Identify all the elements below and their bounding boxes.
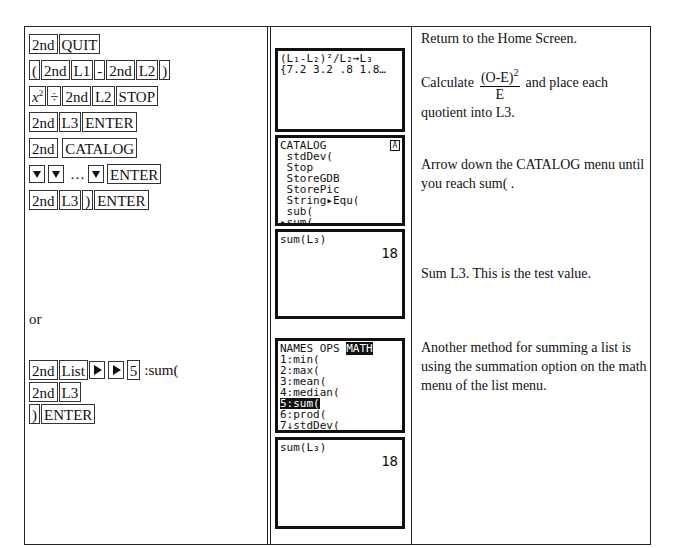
sum-label: :sum( bbox=[144, 359, 178, 381]
down-arrow-key-icon bbox=[48, 165, 64, 183]
fraction-formula: (O-E)2E bbox=[480, 65, 520, 103]
key-l2: L2 bbox=[92, 86, 115, 106]
column-divider bbox=[267, 27, 268, 544]
keystroke-row-l3-enter: 2ndL3ENTER bbox=[29, 109, 138, 132]
description-home-screen: Return to the Home Screen. bbox=[421, 29, 649, 48]
fraction-denominator: E bbox=[480, 87, 520, 103]
key-l3: L3 bbox=[59, 112, 82, 132]
instruction-table: 2ndQUIT (2ndL1-2ndL2) x2÷2ndL2STOP 2ndL3… bbox=[24, 26, 651, 545]
key-2nd: 2nd bbox=[29, 360, 58, 380]
tab-ops: OPS bbox=[320, 342, 340, 355]
keystroke-row-quit: 2ndQUIT bbox=[29, 31, 101, 54]
key-close-paren: ) bbox=[29, 404, 40, 424]
keystroke-row-catalog: 2nd CATALOG bbox=[29, 135, 138, 158]
column-divider bbox=[270, 27, 271, 544]
keystroke-row-arrow-down: …ENTER bbox=[29, 161, 162, 185]
fraction-numerator: (O-E)2 bbox=[480, 65, 520, 87]
key-l3: L3 bbox=[59, 190, 82, 210]
down-arrow-key-icon bbox=[88, 165, 104, 183]
keystroke-row-close-enter: )ENTER bbox=[29, 401, 96, 424]
x-label: x bbox=[32, 89, 39, 105]
key-enter: ENTER bbox=[41, 404, 95, 424]
key-enter: ENTER bbox=[107, 164, 161, 184]
calculate-label: Calculate bbox=[421, 75, 474, 90]
tab-math-selected: MATH bbox=[346, 342, 373, 355]
key-l1: L1 bbox=[71, 60, 94, 80]
key-enter: ENTER bbox=[94, 190, 148, 210]
description-catalog: Arrow down the CATALOG menu until you re… bbox=[421, 155, 649, 193]
key-quit: QUIT bbox=[59, 34, 101, 54]
key-2nd: 2nd bbox=[29, 190, 58, 210]
sum-result: 18 bbox=[280, 453, 400, 469]
key-stop: STOP bbox=[116, 86, 158, 106]
key-2nd: 2nd bbox=[29, 34, 58, 54]
superscript-2: 2 bbox=[39, 88, 44, 98]
key-2nd: 2nd bbox=[29, 138, 58, 158]
right-arrow-key-icon bbox=[108, 361, 124, 379]
description-alternate: Another method for summing a list is usi… bbox=[421, 338, 649, 395]
or-label: or bbox=[29, 308, 42, 330]
calc-screen-sum-result: sum(L₃) 18 bbox=[275, 229, 405, 319]
ellipsis: … bbox=[70, 163, 85, 185]
description-calculate: Calculate(O-E)2Eand place each quotient … bbox=[421, 65, 649, 122]
calc-screen-catalog: A CATALOG stdDev( Stop StoreGDB StorePic… bbox=[275, 135, 405, 226]
keystroke-row-l3: 2ndL3 bbox=[29, 379, 82, 402]
numerator-text: (O-E) bbox=[481, 70, 514, 85]
key-minus: - bbox=[94, 60, 105, 80]
keystroke-row-square-divide: x2÷2ndL2STOP bbox=[29, 83, 159, 106]
key-enter: ENTER bbox=[82, 112, 136, 132]
column-divider bbox=[411, 27, 412, 544]
numerator-exponent: 2 bbox=[514, 67, 519, 78]
keystroke-row-list-math: 2ndList5:sum( bbox=[29, 357, 182, 381]
calc-screen-sum-result-2: sum(L₃) 18 bbox=[275, 437, 405, 529]
key-open-paren: ( bbox=[29, 60, 40, 80]
calc-screen-list-math-menu: NAMES OPS MATH 1:min( 2:max( 3:mean( 4:m… bbox=[275, 338, 405, 433]
key-close-paren: ) bbox=[82, 190, 93, 210]
calc-screen-list-calc: (L₁-L₂)²/L₂→L₃ {7.2 3.2 .8 1.8… bbox=[275, 48, 405, 132]
place-label: and place each bbox=[526, 75, 608, 90]
key-2nd: 2nd bbox=[29, 382, 58, 402]
description-sum: Sum L3. This is the test value. bbox=[421, 264, 649, 283]
sum-result: 18 bbox=[280, 245, 400, 261]
down-arrow-key-icon bbox=[29, 165, 45, 183]
key-divide: ÷ bbox=[47, 86, 61, 106]
menu-item: 7↓stdDev( bbox=[280, 420, 400, 431]
screen-line: {7.2 3.2 .8 1.8… bbox=[280, 64, 400, 75]
alpha-lock-badge: A bbox=[390, 140, 400, 151]
quotient-label: quotient into L3. bbox=[421, 105, 515, 120]
key-5: 5 bbox=[127, 360, 141, 380]
key-l3: L3 bbox=[59, 382, 82, 402]
right-arrow-key-icon bbox=[89, 361, 105, 379]
screen-line: ▸sum( bbox=[280, 217, 400, 226]
key-list: List bbox=[59, 360, 88, 380]
keystroke-row-subtract: (2ndL1-2ndL2) bbox=[29, 57, 171, 80]
key-catalog: CATALOG bbox=[62, 138, 137, 158]
key-2nd: 2nd bbox=[41, 60, 70, 80]
key-l2: L2 bbox=[136, 60, 159, 80]
key-close-paren: ) bbox=[159, 60, 170, 80]
key-2nd: 2nd bbox=[106, 60, 135, 80]
key-2nd: 2nd bbox=[62, 86, 91, 106]
key-2nd: 2nd bbox=[29, 112, 58, 132]
key-x-squared: x2 bbox=[29, 86, 46, 106]
keystroke-row-sum-l3: 2ndL3)ENTER bbox=[29, 187, 150, 210]
screen-line: sum(L₃) bbox=[280, 442, 400, 453]
screen-line: sum(L₃) bbox=[280, 234, 400, 245]
